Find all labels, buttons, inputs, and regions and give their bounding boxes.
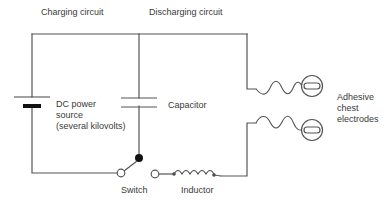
electrode-lead-lower (256, 116, 302, 130)
switch-label: Switch (121, 185, 148, 196)
switch-symbol (117, 154, 143, 177)
dc-power-source-symbol (14, 97, 50, 108)
capacitor-label: Capacitor (168, 100, 207, 111)
electrode-lower (302, 120, 323, 141)
charging-circuit-label: Charging circuit (41, 7, 104, 18)
dc-power-source-label: DC power source (several kilovolts) (56, 99, 126, 132)
inductor-symbol (151, 170, 221, 178)
inductor-label: Inductor (181, 185, 214, 196)
right-wire-lower (221, 123, 256, 176)
electrode-upper (302, 76, 323, 97)
right-wire-upper (247, 34, 256, 89)
electrode-lead-upper (256, 81, 302, 94)
discharging-circuit-label: Discharging circuit (149, 7, 223, 18)
electrodes-label: Adhesive chest electrodes (337, 92, 379, 125)
